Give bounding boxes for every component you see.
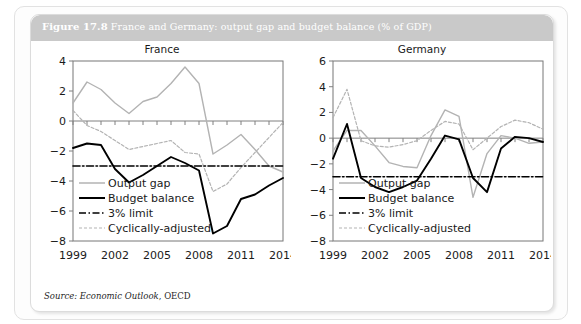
legend-label-budget-balance: Budget balance [368,192,455,205]
plot-france: −8−6−4−2024199920022005200820112014Outpu… [33,55,291,287]
svg-text:2002: 2002 [101,249,129,262]
svg-text:2002: 2002 [361,249,389,262]
svg-text:−2: −2 [310,158,326,171]
series-output-gap [333,110,543,197]
source-publication: Economic Outlook [80,291,159,301]
svg-text:1999: 1999 [319,249,347,262]
legend-label-cyclically-adjusted: Cyclically-adjusted [108,222,211,235]
figure-box: Figure 17.8 France and Germany: output g… [30,14,554,312]
source-organisation: , OECD [159,291,191,301]
svg-text:2005: 2005 [403,249,431,262]
svg-text:2: 2 [59,85,66,98]
legend-label-budget-balance: Budget balance [108,192,195,205]
svg-text:−6: −6 [310,209,326,222]
figure-number: Figure 17.8 [42,21,108,32]
panel-france: France −8−6−4−20241999200220052008201120… [33,41,291,287]
panel-title-france: France [33,43,291,55]
figure-title: France and Germany: output gap and budge… [111,21,432,32]
svg-text:2: 2 [319,106,326,119]
svg-text:0: 0 [59,115,66,128]
svg-text:1999: 1999 [59,249,87,262]
plot-germany: −8−6−4−20246199920022005200820112014Outp… [293,55,551,287]
svg-text:4: 4 [319,81,326,94]
source-label: Source: [44,291,77,301]
svg-text:2008: 2008 [185,249,213,262]
figure-header-bar: Figure 17.8 France and Germany: output g… [31,15,553,41]
source-note: Source: Economic Outlook, OECD [44,291,191,301]
svg-text:2011: 2011 [227,249,255,262]
svg-text:−8: −8 [50,235,66,248]
svg-text:2014: 2014 [529,249,551,262]
svg-text:0: 0 [319,132,326,145]
legend-label-limit: 3% limit [368,207,414,220]
svg-text:−2: −2 [50,145,66,158]
svg-text:−6: −6 [50,205,66,218]
svg-text:4: 4 [59,55,66,68]
svg-text:2011: 2011 [487,249,515,262]
svg-text:6: 6 [319,55,326,68]
svg-text:2014: 2014 [269,249,291,262]
figure-caption: Figure 17.8 France and Germany: output g… [42,21,432,32]
legend-label-cyclically-adjusted: Cyclically-adjusted [368,222,471,235]
panel-germany: Germany −8−6−4−2024619992002200520082011… [293,41,551,287]
legend-label-limit: 3% limit [108,207,154,220]
svg-text:2008: 2008 [445,249,473,262]
svg-text:−4: −4 [50,175,66,188]
svg-text:2005: 2005 [143,249,171,262]
panel-title-germany: Germany [293,43,551,55]
figure-page: Figure 17.8 France and Germany: output g… [0,0,581,324]
legend-label-output-gap: Output gap [108,177,170,190]
svg-text:−8: −8 [310,235,326,248]
chart-panels: France −8−6−4−20241999200220052008201120… [31,41,553,287]
legend-label-output-gap: Output gap [368,177,430,190]
svg-text:−4: −4 [310,184,326,197]
